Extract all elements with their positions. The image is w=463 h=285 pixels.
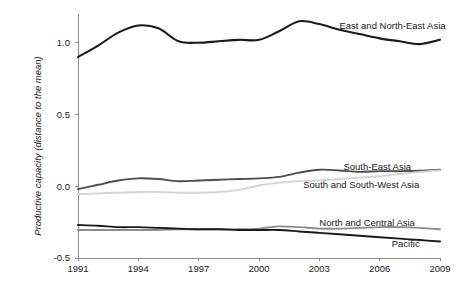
y-axis-title-group: Productive capacity (distance to the mea…: [32, 56, 43, 236]
series-label: Pacific: [392, 238, 420, 249]
x-axis-tick-labels: 1991199419972000200320062009: [67, 263, 450, 274]
x-tick-label: 1991: [67, 263, 88, 274]
series-label: North and Central Asia: [319, 217, 415, 228]
y-axis-title: Productive capacity (distance to the mea…: [32, 56, 43, 236]
chart-container: Productive capacity (distance to the mea…: [0, 0, 463, 285]
series-inline-labels: East and North-East AsiaSouth-East AsiaS…: [303, 20, 446, 249]
y-tick-label: 0.5: [57, 109, 70, 120]
series-lines: [78, 21, 440, 242]
x-tick-label: 2003: [309, 263, 330, 274]
productive-capacity-line-chart: Productive capacity (distance to the mea…: [0, 0, 463, 285]
series-label: South-East Asia: [343, 161, 411, 172]
y-tick-label: 0.0: [57, 181, 70, 192]
series-label: East and North-East Asia: [339, 20, 446, 31]
x-tick-label: 1994: [128, 263, 149, 274]
series-label: South and South-West Asia: [303, 179, 420, 190]
x-tick-label: 2006: [369, 263, 390, 274]
x-tick-label: 2000: [248, 263, 269, 274]
x-tick-label: 2009: [429, 263, 450, 274]
x-tick-label: 1997: [188, 263, 209, 274]
y-tick-label: -0.5: [54, 252, 70, 263]
y-tick-label: 1.0: [57, 37, 70, 48]
y-axis-tick-labels: -0.50.00.51.0: [54, 37, 70, 263]
